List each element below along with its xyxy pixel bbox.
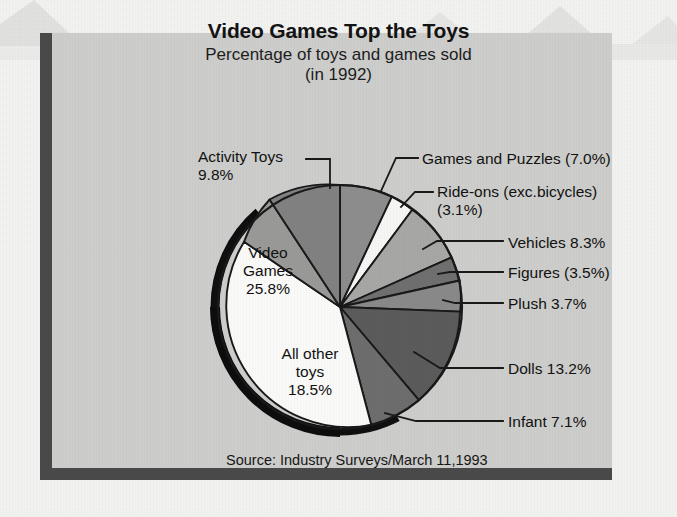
- pie-label-dolls: Dolls 13.2%: [508, 360, 591, 378]
- pie-label-figures: Figures (3.5%): [508, 264, 610, 282]
- pie-label-activity-toys: Activity Toys 9.8%: [198, 148, 283, 184]
- pie-label-all-other-toys: All other toys 18.5%: [258, 345, 362, 399]
- pie-label-video-games: Video Games 25.8%: [222, 244, 314, 298]
- source-note: Source: Industry Surveys/March 11,1993: [226, 452, 488, 468]
- pie-label-ride-ons: Ride-ons (exc.bicycles) (3.1%): [437, 183, 597, 219]
- pie-label-infant: Infant 7.1%: [508, 413, 586, 431]
- pie-label-vehicles: Vehicles 8.3%: [508, 234, 605, 252]
- chart-title: Video Games Top the Toys: [0, 20, 677, 42]
- title-block: Video Games Top the Toys Percentage of t…: [0, 20, 677, 84]
- pie-label-plush: Plush 3.7%: [508, 295, 586, 313]
- pie-label-games-puzzles: Games and Puzzles (7.0%): [422, 150, 611, 168]
- chart-subtitle: Percentage of toys and games sold: [0, 45, 677, 65]
- chart-subtitle-year: (in 1992): [0, 65, 677, 85]
